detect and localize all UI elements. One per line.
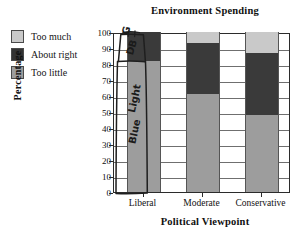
x-axis-tick-label: Conservative [229,198,293,208]
x-axis-tick-label: Moderate [170,198,234,208]
bar-segment [186,32,220,43]
legend-label: About right [31,49,77,60]
x-axis-tick-mark [202,193,203,197]
bar-segment [186,94,220,192]
bar-moderate [186,32,220,192]
bar-segment [186,43,220,94]
y-axis-title: Percentage [12,21,23,131]
bar-segment [245,115,279,192]
chart-title: Environment Spending [110,5,300,16]
bar-conservative [245,32,279,192]
bar-segment [245,53,279,115]
chart-figure: Environment Spending Too much About righ… [0,0,304,237]
bar-segment [245,32,279,53]
y-axis-tick-mark [109,193,113,194]
legend-label: Too much [31,31,71,42]
x-axis-tick-label: Liberal [111,198,175,208]
x-axis-tick-labels: LiberalModerateConservative [113,198,290,212]
x-axis-title: Political Viewpoint [110,216,300,227]
x-axis-tick-mark [143,193,144,197]
x-axis-tick-mark [261,193,262,197]
legend-label: Too little [31,67,67,78]
plot-area [113,33,290,193]
